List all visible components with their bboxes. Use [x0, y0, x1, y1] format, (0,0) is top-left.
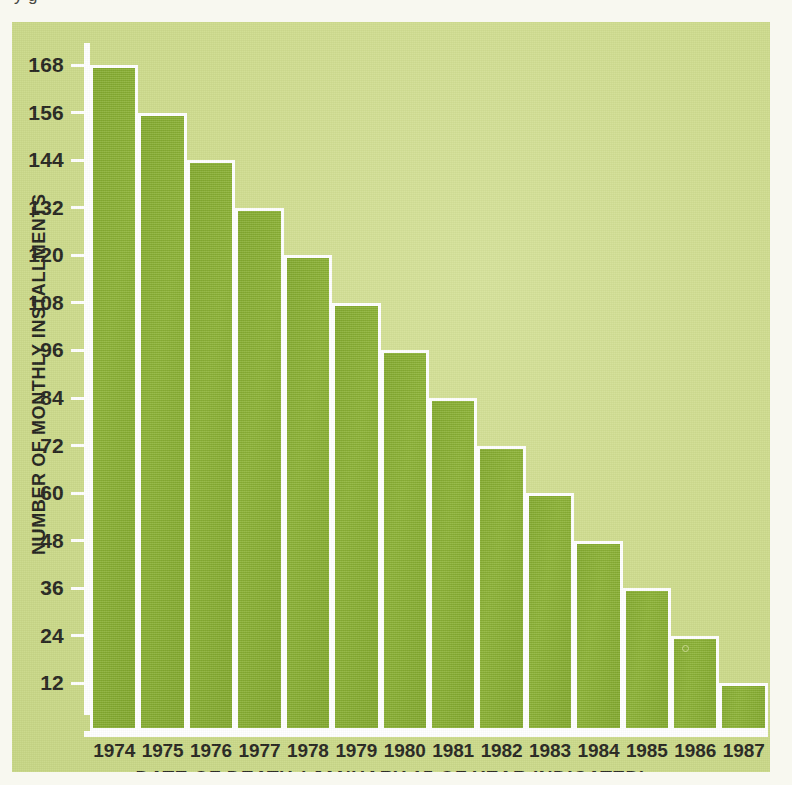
- bar-slot: 1981: [429, 65, 477, 731]
- y-axis-tick: 132: [71, 206, 84, 209]
- y-axis-tick-label: 60: [40, 481, 64, 505]
- clipped-page-title: y g: [0, 0, 792, 4]
- x-axis-tick-label: 1987: [723, 740, 765, 762]
- x-axis-tick-label: 1986: [674, 740, 716, 762]
- x-axis-tick-label: 1983: [529, 740, 571, 762]
- bar-series: 1974197519761977197819791980198119821983…: [90, 65, 768, 731]
- bar: [623, 588, 671, 731]
- y-axis-tick-label: 96: [40, 338, 64, 362]
- y-axis-tick: 48: [71, 539, 84, 542]
- x-axis-tick-label: 1982: [481, 740, 523, 762]
- plot-area: 1681561441321201089684726048362412 19741…: [90, 43, 768, 737]
- bar-slot: 1985: [623, 65, 671, 731]
- y-axis-tick: 72: [71, 444, 84, 447]
- y-axis-tick-label: 132: [28, 196, 64, 220]
- x-axis-tick-label: 1984: [577, 740, 619, 762]
- y-axis-tick-label: 144: [28, 148, 64, 172]
- y-axis-tick: 12: [71, 682, 84, 685]
- bar-slot: 1986: [671, 65, 719, 731]
- bar: [284, 255, 332, 731]
- x-axis-tick-label: 1977: [239, 740, 281, 762]
- y-axis-tick: 108: [71, 301, 84, 304]
- y-axis-tick: 168: [71, 64, 84, 67]
- y-axis-tick: 36: [71, 587, 84, 590]
- bar: [526, 493, 574, 731]
- bar: [90, 65, 138, 731]
- x-axis-title: DATE OF DEATH ( JANUARY 15 OF YEAR INDIC…: [12, 767, 770, 772]
- y-axis-tick-label: 12: [40, 671, 64, 695]
- bar: [381, 350, 429, 731]
- chart-panel: NUMBER OF MONTHLY INSTALLMENTS 168156144…: [12, 22, 770, 772]
- x-axis-tick-label: 1976: [190, 740, 232, 762]
- y-axis-tick-label: 72: [40, 434, 64, 458]
- x-axis-tick-label: 1981: [432, 740, 474, 762]
- x-axis-tick-label: 1975: [142, 740, 184, 762]
- y-axis-tick-label: 36: [40, 576, 64, 600]
- bar-slot: 1984: [574, 65, 622, 731]
- y-axis-tick-label: 120: [28, 243, 64, 267]
- y-axis-tick-label: 156: [28, 101, 64, 125]
- x-axis-tick-label: 1974: [93, 740, 135, 762]
- y-axis-tick-label: 108: [28, 291, 64, 315]
- x-axis-tick-label: 1979: [335, 740, 377, 762]
- bar-slot: 1976: [187, 65, 235, 731]
- y-axis-tick: 60: [71, 492, 84, 495]
- y-axis-tick: 120: [71, 254, 84, 257]
- bar-slot: 1983: [526, 65, 574, 731]
- bar: [671, 636, 719, 731]
- y-axis-tick-label: 48: [40, 529, 64, 553]
- bar-slot: 1982: [477, 65, 525, 731]
- y-axis-tick-label: 84: [40, 386, 64, 410]
- x-axis-line: [84, 731, 768, 737]
- bar-slot: 1975: [138, 65, 186, 731]
- bar: [429, 398, 477, 731]
- bar: [477, 446, 525, 731]
- x-axis-tick-label: 1978: [287, 740, 329, 762]
- bar-slot: 1980: [381, 65, 429, 731]
- bar: [235, 208, 283, 731]
- bar-slot: 1974: [90, 65, 138, 731]
- bar: [332, 303, 380, 731]
- x-axis-tick-label: 1980: [384, 740, 426, 762]
- x-axis-tick-label: 1985: [626, 740, 668, 762]
- bar: [719, 683, 767, 731]
- bar: [187, 160, 235, 731]
- bar-slot: 1979: [332, 65, 380, 731]
- y-axis-tick: 24: [71, 634, 84, 637]
- y-axis-tick: 144: [71, 159, 84, 162]
- chart-screenshot: y g NUMBER OF MONTHLY INSTALLMENTS 16815…: [0, 0, 792, 785]
- bar-slot: 1987: [719, 65, 767, 731]
- bar: [574, 541, 622, 731]
- y-axis-tick: 96: [71, 349, 84, 352]
- y-axis-tick-label: 24: [40, 624, 64, 648]
- y-axis-tick: 84: [71, 397, 84, 400]
- bar-slot: 1977: [235, 65, 283, 731]
- bar-slot: 1978: [284, 65, 332, 731]
- y-axis-tick-label: 168: [28, 53, 64, 77]
- bar: [138, 113, 186, 731]
- y-axis-tick: 156: [71, 111, 84, 114]
